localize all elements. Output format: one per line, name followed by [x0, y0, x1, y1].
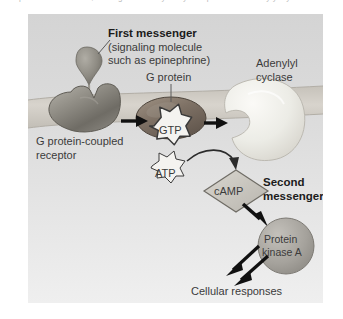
atp-label: ATP [155, 167, 176, 179]
gtp-label: GTP [159, 124, 182, 136]
second-messenger-line1: Second [263, 176, 305, 188]
gpcr-label-line1: G protein-coupled [36, 135, 123, 147]
second-messenger-line2: messenger [263, 190, 323, 202]
adenylyl-cyclase-label-line1: Adenylyl [256, 57, 298, 69]
camp-label: cAMP [214, 185, 243, 197]
adenylyl-cyclase-label-line2: cyclase [256, 71, 293, 83]
figure-root: the plasma membrane, the signal is relay… [0, 0, 343, 319]
cutoff-text-strip: the plasma membrane, the signal is relay… [0, 0, 343, 10]
protein-kinase-a: Protein kinase A [258, 218, 314, 274]
kinase-label-line1: Protein [264, 233, 297, 245]
signal-transduction-diagram: GTP [28, 14, 323, 303]
g-protein-label: G protein [146, 71, 191, 83]
diagram-canvas: GTP [28, 14, 323, 303]
gpcr-label-line2: receptor [36, 149, 77, 161]
first-messenger-line3: such as epinephrine) [108, 54, 210, 66]
cellular-responses-label: Cellular responses [191, 285, 283, 297]
first-messenger-line2: (signaling molecule [108, 41, 202, 53]
cutoff-text: the plasma membrane, the signal is relay… [4, 0, 311, 2]
first-messenger-title: First messenger [108, 27, 197, 39]
